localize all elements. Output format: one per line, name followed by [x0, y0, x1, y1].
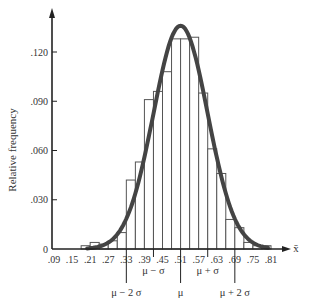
y-axis-label: Relative frequency: [6, 108, 18, 192]
x-axis-ticks: .09.15.21.27.33.39.45.51.57.63.69.75.81: [48, 254, 278, 265]
x-axis-arrow-icon: [282, 246, 291, 252]
y-tick-label: .030: [31, 194, 49, 205]
x-tick-label: .75: [247, 254, 260, 265]
x-tick-label: .09: [48, 254, 61, 265]
histogram-bar: [226, 219, 235, 249]
y-tick-label: 0: [43, 244, 48, 255]
x-tick-label: .45: [156, 254, 169, 265]
x-tick-label: .57: [192, 254, 205, 265]
annotation-label: μ: [178, 287, 184, 298]
histogram-chart: .09.15.21.27.33.39.45.51.57.63.69.75.81 …: [0, 0, 312, 308]
y-tick-label: .090: [31, 96, 49, 107]
y-tick-label: .120: [31, 47, 49, 58]
x-tick-label: .15: [66, 254, 79, 265]
annotation-label: μ − σ: [142, 265, 165, 276]
y-axis-ticks: 0.030.060.090.120: [31, 47, 58, 255]
x-tick-label: .39: [138, 254, 151, 265]
y-tick-label: .060: [31, 145, 49, 156]
x-tick-label: .63: [211, 254, 224, 265]
y-axis-arrow-icon: [49, 8, 55, 18]
histogram-bar: [181, 39, 190, 249]
x-tick-label: .81: [265, 254, 278, 265]
annotation-label: μ + σ: [196, 265, 219, 276]
histogram-bar: [172, 39, 181, 249]
histogram-bar: [163, 72, 172, 249]
x-tick-label: .21: [84, 254, 97, 265]
annotation-label: μ + 2 σ: [220, 287, 251, 298]
x-axis-label: x̄: [293, 242, 299, 254]
annotation-label: μ − 2 σ: [111, 287, 142, 298]
histogram-bar: [208, 149, 217, 249]
histogram-bars: [81, 37, 271, 249]
x-tick-label: .27: [102, 254, 115, 265]
